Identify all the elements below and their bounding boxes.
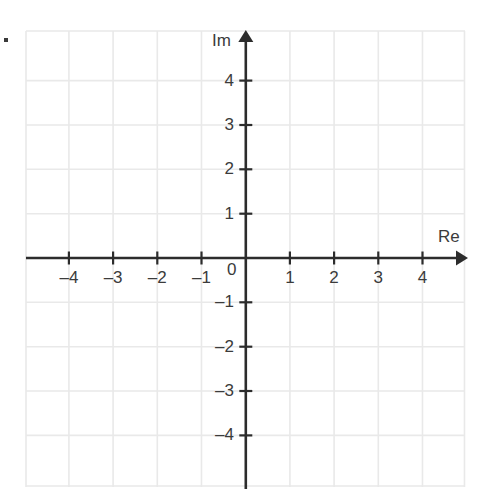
tick-label-y--3: –3 bbox=[200, 381, 234, 401]
tick-label-x-4: 4 bbox=[418, 268, 427, 288]
tick-label-y-3: 3 bbox=[200, 115, 234, 135]
tick-label-x--4: –4 bbox=[59, 268, 78, 288]
tick-label-x-3: 3 bbox=[374, 268, 383, 288]
tick-label-y-2: 2 bbox=[200, 159, 234, 179]
tick-label-x--3: –3 bbox=[104, 268, 123, 288]
tick-label-x--1: –1 bbox=[192, 268, 211, 288]
argand-diagram-figure: Im Re 0 –4 –3 –2 –1 1 2 3 4 4 3 2 1 –1 –… bbox=[0, 0, 478, 504]
tick-label-y--4: –4 bbox=[200, 425, 234, 445]
tick-label-y--2: –2 bbox=[200, 337, 234, 357]
imaginary-axis-label: Im bbox=[212, 31, 231, 51]
tick-label-y-4: 4 bbox=[200, 71, 234, 91]
argand-plot-svg bbox=[0, 0, 478, 504]
tick-label-x-2: 2 bbox=[329, 268, 338, 288]
real-axis-label: Re bbox=[438, 227, 460, 247]
tick-label-y--1: –1 bbox=[200, 292, 234, 312]
tick-label-y-1: 1 bbox=[200, 204, 234, 224]
imaginary-axis bbox=[238, 30, 253, 489]
origin-label: 0 bbox=[227, 260, 236, 280]
tick-label-x--2: –2 bbox=[148, 268, 167, 288]
tick-label-x-1: 1 bbox=[285, 268, 294, 288]
